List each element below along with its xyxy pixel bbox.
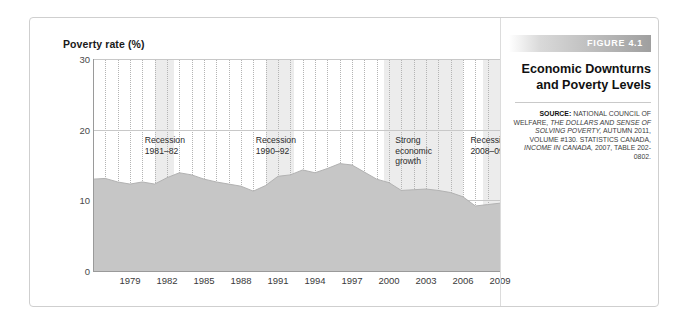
x-axis-line	[93, 271, 501, 272]
ann-recession-1981: Recession1981–82	[145, 135, 185, 156]
y-tick-label: 10	[64, 195, 90, 206]
y-tick-label: 30	[64, 54, 90, 65]
ann-strong-growth-line1: Strong	[395, 135, 432, 146]
source-text-3: 2007, TABLE 202-0802.	[593, 144, 651, 160]
x-tick-label: 2000	[378, 275, 399, 286]
x-tick-label: 1991	[267, 275, 288, 286]
x-tick-label: 1979	[119, 275, 140, 286]
ann-strong-growth: Strongeconomicgrowth	[395, 135, 432, 167]
ann-recession-1990: Recession1990–92	[256, 135, 296, 156]
y-tick-label: 20	[64, 124, 90, 135]
ann-recession-2008-line1: Recession	[470, 135, 500, 146]
source-italic-2: INCOME IN CANADA,	[524, 144, 593, 151]
caption-title-line2: and Poverty Levels	[536, 78, 651, 92]
source-label: SOURCE:	[539, 110, 571, 117]
figure-root: Poverty rate (%) 0102030 Recession1981–8…	[0, 0, 689, 327]
x-tick-label: 2006	[452, 275, 473, 286]
ann-recession-1981-line1: Recession	[145, 135, 185, 146]
ann-strong-growth-line2: economic	[395, 146, 432, 157]
figure-caption-title: Economic Downturns and Poverty Levels	[511, 62, 651, 93]
ann-recession-2008: Recession2008–09	[470, 135, 500, 156]
x-tick-label: 1985	[193, 275, 214, 286]
plot-area: Recession1981–82Recession1990–92Strongec…	[93, 59, 500, 271]
ann-strong-growth-line3: growth	[395, 156, 432, 167]
ann-recession-1981-line2: 1981–82	[145, 146, 185, 157]
x-tick-label: 2003	[415, 275, 436, 286]
y-tick-label: 0	[64, 266, 90, 277]
area-fill-path	[93, 164, 500, 271]
x-tick-label: 1982	[156, 275, 177, 286]
figure-tag-bar: FIGURE 4.1	[509, 35, 651, 52]
ann-recession-1990-line1: Recession	[256, 135, 296, 146]
figure-source-note: SOURCE: NATIONAL COUNCIL OF WELFARE, THE…	[511, 110, 651, 162]
y-axis-ticks: 0102030	[60, 18, 90, 306]
x-axis-ticks: 1979198219851988199119941997200020032006…	[93, 275, 500, 295]
x-tick-label: 1988	[230, 275, 251, 286]
figure-tag-label: FIGURE 4.1	[587, 38, 643, 48]
x-tick-label: 1997	[341, 275, 362, 286]
y-axis-line	[93, 59, 94, 272]
ann-recession-2008-line2: 2008–09	[470, 146, 500, 157]
caption-title-line1: Economic Downturns	[522, 62, 651, 76]
chart-panel: Poverty rate (%) 0102030 Recession1981–8…	[30, 18, 500, 306]
caption-divider	[515, 102, 651, 103]
x-tick-label: 1994	[304, 275, 325, 286]
caption-panel: FIGURE 4.1 Economic Downturns and Povert…	[500, 18, 658, 306]
ann-recession-1990-line2: 1990–92	[256, 146, 296, 157]
figure-box: Poverty rate (%) 0102030 Recession1981–8…	[29, 17, 659, 307]
poverty-rate-area-series	[93, 59, 500, 271]
